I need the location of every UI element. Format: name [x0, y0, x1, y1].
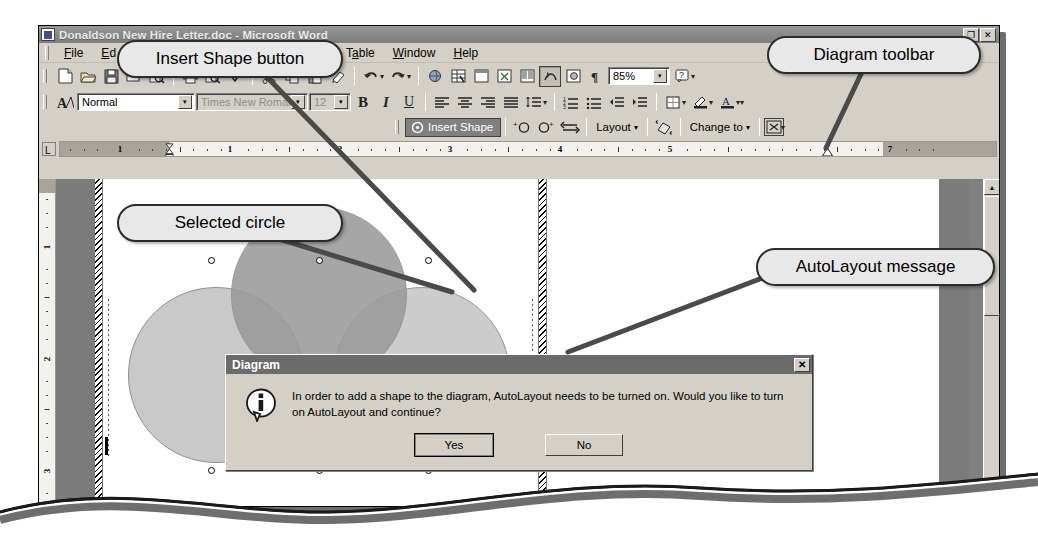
bulleted-list-icon[interactable]	[583, 92, 605, 113]
ruler-tick	[782, 149, 783, 151]
selection-handle-top-right[interactable]	[425, 257, 432, 264]
font-size-dropdown-arrow[interactable]: ▾	[334, 95, 348, 109]
font-dropdown-arrow[interactable]: ▾	[291, 95, 305, 109]
decrease-indent-icon[interactable]	[606, 92, 628, 113]
menu-item-table[interactable]: Table	[337, 44, 384, 62]
ruler-tick	[919, 149, 920, 151]
columns-icon[interactable]	[516, 66, 538, 87]
justify-icon[interactable]	[500, 92, 522, 113]
scroll-up-button[interactable]: ▲	[984, 179, 999, 195]
ruler-tick	[45, 409, 50, 410]
ruler-number: 7	[888, 144, 893, 154]
word-document-icon	[41, 28, 55, 41]
zoom-value: 85%	[613, 70, 653, 82]
style-dropdown-arrow[interactable]: ▾	[178, 95, 192, 109]
standard-toolbar-grip[interactable]	[43, 69, 47, 83]
menu-bar-grip[interactable]	[45, 46, 49, 60]
align-left-icon[interactable]	[431, 92, 453, 113]
document-map-icon[interactable]	[562, 66, 584, 87]
diagram-frame-corner-bottom-left	[105, 437, 108, 455]
tables-and-borders-icon[interactable]	[447, 66, 469, 87]
move-shape-forward-icon[interactable]: +	[534, 117, 558, 137]
bold-button[interactable]: B	[352, 92, 374, 113]
formatting-toolbar-options-caret[interactable]: ▾	[740, 98, 744, 107]
autoformat-icon[interactable]	[652, 117, 676, 137]
italic-button[interactable]: I	[375, 92, 397, 113]
ruler-tick	[796, 149, 797, 151]
highlight-icon[interactable]	[689, 92, 711, 113]
zoom-dropdown-arrow[interactable]: ▾	[653, 69, 667, 83]
ruler-number: 3	[42, 469, 52, 474]
close-window-button[interactable]: ✕	[980, 28, 996, 42]
ruler-tick	[645, 149, 646, 151]
align-center-icon[interactable]	[454, 92, 476, 113]
selection-handle-top-center[interactable]	[316, 257, 323, 264]
vertical-ruler[interactable]: 123	[39, 179, 56, 506]
ruler-tick	[728, 147, 729, 152]
undo-icon[interactable]	[360, 66, 382, 87]
diagram-toolbar-grip[interactable]	[395, 120, 399, 134]
diagram-toolbar-options-caret[interactable]: ▾	[781, 123, 785, 132]
menu-item-file[interactable]: File	[55, 44, 92, 62]
ruler-tick	[604, 149, 605, 151]
help-icon[interactable]: ?	[671, 66, 693, 87]
new-document-icon[interactable]	[54, 66, 76, 87]
underline-button[interactable]: U	[398, 92, 420, 113]
formatting-toolbar-grip[interactable]	[43, 95, 47, 109]
drawing-icon[interactable]	[539, 66, 561, 87]
open-icon[interactable]	[77, 66, 99, 87]
insert-shape-glyph	[411, 121, 424, 134]
selection-handle-top-left[interactable]	[208, 257, 215, 264]
styles-and-formatting-icon[interactable]: A	[54, 92, 76, 113]
show-formatting-marks-icon[interactable]: ¶	[585, 66, 607, 87]
ruler-tick	[46, 325, 48, 326]
font-size-value: 12	[314, 96, 334, 108]
zoom-combo[interactable]: 85% ▾	[608, 67, 670, 85]
ruler-tick	[46, 451, 48, 452]
font-color-icon[interactable]: A	[716, 92, 738, 113]
align-right-icon[interactable]	[477, 92, 499, 113]
numbered-list-icon[interactable]: 123	[560, 92, 582, 113]
change-to-dropdown-caret[interactable]: ▾	[746, 123, 750, 132]
font-size-combo[interactable]: 12 ▾	[309, 93, 351, 111]
screenshot-root: Donaldson New Hire Letter.doc - Microsof…	[0, 0, 1038, 547]
underline-label: U	[404, 94, 414, 110]
reverse-diagram-icon[interactable]	[558, 117, 582, 137]
outside-border-icon[interactable]	[662, 92, 684, 113]
selection-handle-bottom-left[interactable]	[208, 467, 215, 474]
ruler-ticks: 1123457	[60, 142, 996, 156]
ruler-tick	[687, 149, 688, 151]
indent-markers[interactable]	[165, 143, 174, 157]
change-to-button[interactable]: Change to ▾	[685, 118, 755, 137]
move-shape-backward-icon[interactable]: +	[510, 117, 534, 137]
ruler-tick	[84, 149, 85, 151]
horizontal-ruler[interactable]: 1123457	[59, 141, 997, 157]
ruler-tick	[550, 149, 551, 151]
ruler-tick	[180, 147, 181, 152]
insert-excel-spreadsheet-icon[interactable]	[493, 66, 515, 87]
ruler-tick	[851, 149, 852, 151]
vertical-scrollbar[interactable]: ▲	[983, 179, 999, 506]
ruler-tick	[46, 199, 48, 200]
ruler-tick	[837, 147, 838, 152]
dialog-no-button[interactable]: No	[545, 434, 623, 456]
font-combo[interactable]: Times New Roman ▾	[196, 93, 308, 111]
insert-table-icon[interactable]	[470, 66, 492, 87]
style-combo[interactable]: Normal ▾	[77, 93, 195, 111]
layout-button[interactable]: Layout ▾	[591, 118, 643, 137]
layout-dropdown-caret[interactable]: ▾	[634, 123, 638, 132]
dialog-close-button[interactable]: ✕	[794, 358, 810, 372]
right-indent-marker[interactable]	[822, 148, 833, 157]
menu-item-window[interactable]: Window	[384, 44, 445, 62]
tab-stop-selector[interactable]: L	[39, 139, 59, 159]
insert-shape-button[interactable]: Insert Shape	[405, 118, 501, 137]
ruler-number: 1	[228, 144, 233, 154]
increase-indent-icon[interactable]	[629, 92, 651, 113]
dialog-yes-button[interactable]: Yes	[415, 434, 493, 456]
redo-icon[interactable]	[387, 66, 409, 87]
ruler-tick	[700, 149, 701, 151]
bold-label: B	[358, 94, 368, 111]
line-spacing-icon[interactable]	[523, 92, 545, 113]
insert-hyperlink-icon[interactable]	[424, 66, 446, 87]
menu-item-help[interactable]: Help	[444, 44, 487, 62]
